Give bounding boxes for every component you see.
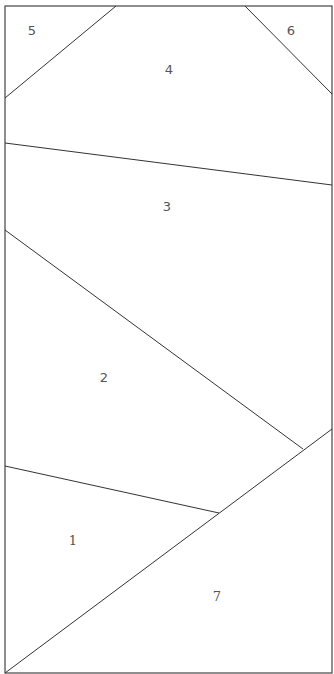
partition-diagram: 5643217 — [0, 0, 334, 674]
region-label-5: 5 — [28, 23, 36, 38]
region-label-6: 6 — [287, 23, 295, 38]
region-label-7: 7 — [213, 589, 221, 604]
region-label-2: 2 — [100, 370, 108, 385]
region-label-1: 1 — [69, 533, 77, 548]
region-label-4: 4 — [165, 62, 173, 77]
region-label-3: 3 — [163, 199, 171, 214]
outer-frame — [5, 6, 332, 673]
